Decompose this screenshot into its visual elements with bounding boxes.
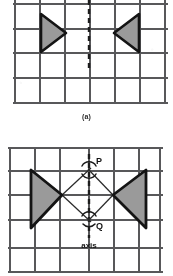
figure-a-canvas <box>0 0 173 113</box>
right-triangle <box>113 170 146 228</box>
left-triangle <box>41 14 66 52</box>
line-right-apex-to-P <box>88 169 113 195</box>
line-left-apex-to-Q <box>62 195 91 222</box>
figure-b: P Q axis <box>0 138 173 276</box>
axis-label: axis <box>81 241 97 250</box>
point-label-Q: Q <box>96 221 103 231</box>
figure-a-caption: (a) <box>0 113 173 120</box>
figure-a: (a) <box>0 0 173 138</box>
right-triangle <box>114 14 139 52</box>
grid-figure-a <box>13 0 168 103</box>
line-right-apex-to-Q <box>88 195 113 221</box>
line-left-apex-to-P <box>62 168 91 195</box>
figure-b-canvas: P Q axis <box>0 138 173 276</box>
point-label-P: P <box>96 156 102 166</box>
left-triangle <box>31 170 62 228</box>
